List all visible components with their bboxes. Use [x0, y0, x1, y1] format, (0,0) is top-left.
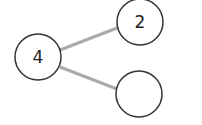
whole-value: 4 [33, 47, 44, 67]
part-top-value: 2 [135, 12, 146, 32]
part-circle-top: 2 [117, 0, 163, 45]
connector-line-bottom [60, 67, 117, 89]
number-bond-diagram: 4 2 [0, 0, 202, 125]
connector-line-top [60, 28, 117, 50]
part-circle-bottom[interactable] [116, 71, 162, 117]
whole-circle: 4 [15, 34, 61, 80]
